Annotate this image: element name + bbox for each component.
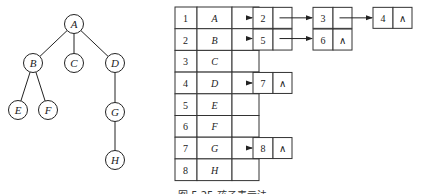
child-node-7: 7∧ bbox=[253, 72, 292, 93]
table-row: 5E bbox=[175, 94, 259, 116]
node-label: E bbox=[14, 104, 22, 116]
row-data: C bbox=[211, 56, 218, 67]
row-index: 5 bbox=[183, 100, 188, 111]
null-pointer-icon: ∧ bbox=[279, 78, 286, 89]
row-index: 7 bbox=[183, 143, 188, 154]
tree-nodes: ABCDEFGH bbox=[9, 15, 125, 170]
null-pointer-icon: ∧ bbox=[279, 143, 286, 154]
row-data: H bbox=[210, 165, 219, 176]
child-index: 2 bbox=[261, 13, 266, 24]
node-label: H bbox=[110, 154, 120, 166]
null-pointer-icon: ∧ bbox=[399, 13, 406, 24]
child-node-8: 8∧ bbox=[253, 138, 292, 159]
table-row: 6F bbox=[175, 116, 259, 138]
tree-node-G: G bbox=[106, 103, 125, 122]
child-index: 6 bbox=[321, 35, 326, 46]
row-index: 2 bbox=[183, 35, 188, 46]
row-data: A bbox=[210, 13, 218, 24]
row-data: D bbox=[210, 78, 219, 89]
tree-edge-A-B bbox=[40, 31, 67, 57]
figure-caption: 图 5.25 孩子表示法 bbox=[178, 189, 267, 194]
row-index: 4 bbox=[183, 78, 188, 89]
firstchild-cell bbox=[232, 50, 259, 72]
child-table: 1A2B3C4D5E6F7G8H bbox=[175, 7, 259, 181]
child-index: 4 bbox=[381, 13, 386, 24]
row-data: E bbox=[210, 100, 217, 111]
child-index: 7 bbox=[261, 78, 266, 89]
node-label: B bbox=[30, 57, 37, 69]
row-index: 3 bbox=[183, 56, 188, 67]
node-label: G bbox=[111, 106, 119, 118]
null-pointer-icon: ∧ bbox=[339, 35, 346, 46]
row-index: 1 bbox=[183, 13, 188, 24]
child-index: 5 bbox=[261, 35, 266, 46]
tree-node-F: F bbox=[39, 101, 58, 120]
row-data: G bbox=[211, 143, 218, 154]
node-label: C bbox=[70, 57, 78, 69]
arrow-head-icon bbox=[306, 36, 313, 41]
tree-node-E: E bbox=[9, 101, 28, 120]
tree-node-A: A bbox=[65, 15, 84, 34]
child-index: 3 bbox=[321, 13, 326, 24]
child-linked-lists: 234∧56∧7∧8∧ bbox=[246, 7, 412, 158]
node-label: D bbox=[110, 57, 119, 69]
tree-node-H: H bbox=[106, 151, 125, 170]
row-data: F bbox=[210, 121, 218, 132]
tree-node-C: C bbox=[65, 54, 84, 73]
child-node-4: 4∧ bbox=[373, 7, 412, 28]
tree-edges bbox=[21, 31, 115, 151]
tree-edge-A-D bbox=[81, 31, 108, 57]
tree-node-D: D bbox=[106, 54, 125, 73]
tree-edge-B-F bbox=[36, 72, 45, 101]
child-next-cell bbox=[273, 29, 292, 50]
arrow-head-icon bbox=[306, 15, 313, 20]
arrow-head-icon bbox=[366, 15, 373, 20]
firstchild-cell bbox=[232, 159, 259, 181]
tree-node-B: B bbox=[24, 54, 43, 73]
table-row: 3C bbox=[175, 50, 259, 72]
row-data: B bbox=[211, 35, 217, 46]
row-index: 8 bbox=[183, 165, 188, 176]
child-node-5: 5 bbox=[253, 29, 313, 50]
child-node-6: 6∧ bbox=[313, 29, 352, 50]
child-index: 8 bbox=[261, 143, 266, 154]
firstchild-cell bbox=[232, 116, 259, 138]
tree-edge-B-E bbox=[21, 72, 30, 101]
node-label: A bbox=[70, 18, 78, 30]
firstchild-cell bbox=[232, 94, 259, 116]
table-row: 8H bbox=[175, 159, 259, 181]
child-node-2: 2 bbox=[253, 7, 313, 28]
node-label: F bbox=[44, 104, 52, 116]
child-node-3: 3 bbox=[313, 7, 373, 28]
child-representation-diagram: ABCDEFGH 1A2B3C4D5E6F7G8H 234∧56∧7∧8∧ 图 … bbox=[0, 0, 435, 194]
row-index: 6 bbox=[183, 121, 188, 132]
